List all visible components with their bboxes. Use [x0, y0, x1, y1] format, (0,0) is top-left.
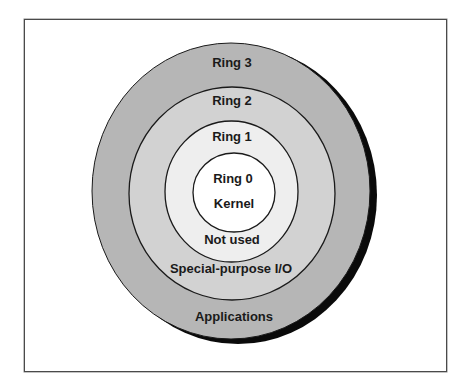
ring-3-label: Ring 3	[212, 55, 252, 70]
not-used-label: Not used	[204, 232, 260, 247]
protection-rings-diagram: Ring 3 Ring 2 Ring 1 Ring 0 Kernel Not u…	[0, 0, 468, 388]
special-purpose-io-label: Special-purpose I/O	[170, 261, 292, 276]
kernel-label: Kernel	[214, 196, 254, 211]
ring-2-label: Ring 2	[212, 93, 252, 108]
ring-0-label: Ring 0	[213, 171, 253, 186]
applications-label: Applications	[195, 309, 273, 324]
ring-1-label: Ring 1	[212, 129, 252, 144]
ring-0-area	[193, 153, 275, 232]
